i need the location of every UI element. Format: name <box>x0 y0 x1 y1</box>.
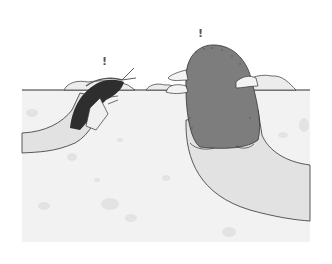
mole-exclamation: ! <box>198 28 203 39</box>
insect-exclamation: ! <box>102 56 107 67</box>
illustration: ! ! <box>0 0 332 264</box>
ground-scene <box>0 0 332 264</box>
mole-snout <box>168 70 188 81</box>
